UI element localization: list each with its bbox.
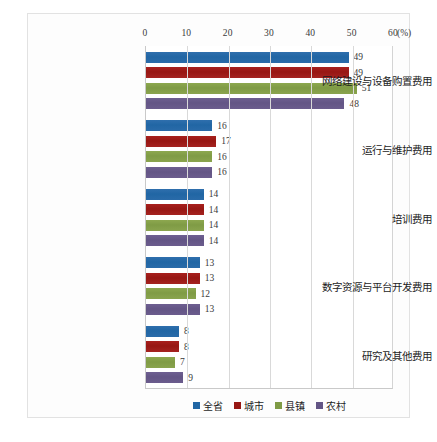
bar-value-label: 12 [201,289,211,299]
bar-value-label: 16 [217,167,227,177]
axis-unit-label: (%) [397,28,411,38]
bar-row[interactable]: 48 [146,98,344,109]
category-label: 网络建设与设备购置费用 [292,73,437,88]
category-label: 培训费用 [292,211,437,226]
bar-row[interactable]: 13 [146,304,200,315]
legend-swatch [316,402,323,409]
bar[interactable] [146,235,204,246]
bar[interactable] [146,151,212,162]
bar-value-label: 9 [188,373,193,383]
bar-row[interactable]: 16 [146,151,212,162]
category-label: 运行与维护费用 [292,142,437,157]
bar-row[interactable]: 14 [146,235,204,246]
chart-legend: 全省城市县镇农村 [145,398,393,413]
x-tick-label: 50 [347,28,357,38]
bar-row[interactable]: 49 [146,52,349,63]
bar[interactable] [146,120,212,131]
category-label: 研究及其他费用 [292,348,437,363]
bar-row[interactable]: 14 [146,189,204,200]
bar-row[interactable]: 17 [146,136,216,147]
legend-item[interactable]: 全省 [193,398,223,413]
legend-item[interactable]: 农村 [316,398,346,413]
bar-value-label: 13 [205,258,215,268]
bar-row[interactable]: 16 [146,167,212,178]
x-tick-label: 30 [264,28,274,38]
x-axis: (%) 0102030405060 [145,28,393,46]
bar[interactable] [146,304,200,315]
legend-label: 全省 [203,398,223,413]
legend-swatch [193,402,200,409]
legend-item[interactable]: 县镇 [275,398,305,413]
gridline [270,46,271,388]
bar[interactable] [146,52,349,63]
bar[interactable] [146,341,179,352]
bar-row[interactable]: 9 [146,372,183,383]
bar[interactable] [146,273,200,284]
bar-row[interactable]: 13 [146,273,200,284]
bar[interactable] [146,257,200,268]
bar-value-label: 14 [209,220,219,230]
x-tick-label: 60 [388,28,398,38]
bar-value-label: 48 [349,99,359,109]
bar-row[interactable]: 14 [146,220,204,231]
x-tick-label: 0 [143,28,148,38]
legend-label: 县镇 [285,398,305,413]
bar[interactable] [146,372,183,383]
bar-value-label: 13 [205,304,215,314]
bar[interactable] [146,98,344,109]
legend-label: 农村 [326,398,346,413]
bar[interactable] [146,204,204,215]
legend-label: 城市 [244,398,264,413]
bar[interactable] [146,357,175,368]
bar[interactable] [146,220,204,231]
bar[interactable] [146,326,179,337]
bar-value-label: 14 [209,189,219,199]
category-label: 数字资源与平台开发费用 [292,279,437,294]
gridline [187,46,188,388]
bar-row[interactable]: 16 [146,120,212,131]
bar-value-label: 7 [180,357,185,367]
bar[interactable] [146,189,204,200]
bar-value-label: 14 [209,205,219,215]
legend-item[interactable]: 城市 [234,398,264,413]
bar-row[interactable]: 13 [146,257,200,268]
bar-value-label: 14 [209,236,219,246]
gridline [229,46,230,388]
bar[interactable] [146,167,212,178]
bar-row[interactable]: 8 [146,341,179,352]
chart-figure: (%) 0102030405060 4949514816171616141414… [0,0,437,442]
bar-row[interactable]: 8 [146,326,179,337]
bar-value-label: 49 [354,52,364,62]
x-tick-label: 40 [305,28,315,38]
legend-swatch [234,402,241,409]
bar-row[interactable]: 7 [146,357,175,368]
bar-value-label: 13 [205,273,215,283]
bar-value-label: 16 [217,152,227,162]
bar-row[interactable]: 14 [146,204,204,215]
legend-swatch [275,402,282,409]
bar[interactable] [146,136,216,147]
bar-value-label: 16 [217,121,227,131]
x-tick-label: 20 [223,28,233,38]
x-tick-label: 10 [181,28,191,38]
